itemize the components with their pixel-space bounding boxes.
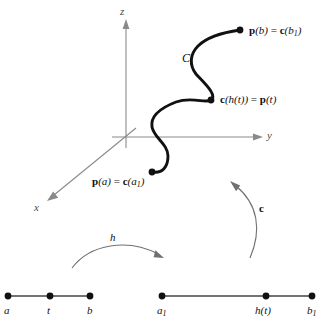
mapping-label-h: h bbox=[110, 232, 116, 243]
interval-right-label-a1-sub: 1 bbox=[163, 309, 167, 318]
figure-canvas bbox=[0, 0, 332, 321]
start-label-arg-a1: (a bbox=[128, 175, 137, 187]
interval-right-label-ht: h(t) bbox=[255, 305, 271, 316]
curve-end-point-label: p(b) = c(b1) bbox=[249, 25, 301, 38]
interval-left-dot-b bbox=[87, 293, 94, 300]
interval-left-dot-t bbox=[47, 293, 54, 300]
y-axis-label: y bbox=[267, 130, 272, 141]
mid-label-arg-t: (t) bbox=[266, 93, 276, 105]
interval-right bbox=[159, 293, 316, 300]
mapping-arrow-h bbox=[72, 245, 164, 268]
x-axis-label: x bbox=[34, 202, 39, 213]
mapping-arrow-h-head bbox=[154, 250, 164, 258]
curve-end-dot bbox=[237, 27, 244, 34]
end-label-equals: = bbox=[268, 24, 280, 36]
interval-right-dot-a1 bbox=[159, 293, 166, 300]
reparametrization-figure: z y x C p(b) = c(b1) c(h(t)) = p(t) p(a)… bbox=[0, 0, 332, 321]
y-axis-arrowhead bbox=[253, 134, 263, 141]
interval-left-label-b: b bbox=[87, 305, 93, 316]
mapping-arrow-c bbox=[230, 181, 257, 258]
interval-left-dot-a bbox=[5, 293, 12, 300]
curve-start-dot bbox=[149, 169, 156, 176]
mapping-label-c: c bbox=[259, 203, 264, 214]
interval-left bbox=[5, 293, 94, 300]
start-label-equals: = bbox=[111, 175, 123, 187]
interval-left-label-t: t bbox=[47, 305, 50, 316]
end-label-arg-b: (b) bbox=[255, 24, 268, 36]
curve-mid-point-label: c(h(t)) = p(t) bbox=[220, 94, 276, 105]
interval-right-label-a1: a1 bbox=[157, 305, 166, 318]
interval-left-label-a: a bbox=[4, 305, 10, 316]
interval-right-label-b1-sub: 1 bbox=[313, 309, 317, 318]
z-axis-arrowhead bbox=[123, 19, 130, 29]
mapping-arrow-c-path bbox=[236, 186, 257, 258]
interval-right-label-b1: b1 bbox=[307, 305, 316, 318]
curve-start-point-label: p(a) = c(a1) bbox=[92, 176, 144, 189]
start-label-arg-a: (a) bbox=[98, 175, 111, 187]
mid-label-equals: = bbox=[248, 93, 260, 105]
interval-right-dot-b1 bbox=[309, 293, 316, 300]
end-label-arg-b1: (b bbox=[285, 24, 294, 36]
curve-mid-dot bbox=[208, 97, 215, 104]
interval-right-dot-ht bbox=[263, 293, 270, 300]
end-label-close-paren: ) bbox=[298, 24, 302, 36]
curve-label-C: C bbox=[182, 52, 190, 64]
z-axis-label: z bbox=[120, 6, 124, 17]
start-label-close-paren: ) bbox=[141, 175, 145, 187]
mapping-arrow-c-head bbox=[230, 181, 240, 191]
mapping-arrow-h-path bbox=[72, 245, 158, 268]
mid-label-arg-ht: (h(t)) bbox=[225, 93, 248, 105]
